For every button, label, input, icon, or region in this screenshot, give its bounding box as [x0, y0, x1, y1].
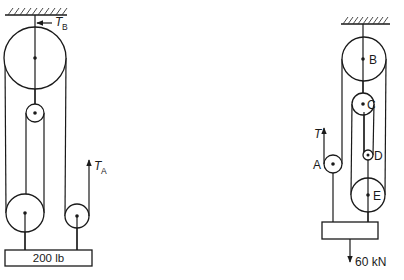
tension-b-subscript: B: [62, 22, 68, 32]
load-label: 200 lb: [33, 252, 64, 264]
load-box-60kn: [322, 222, 378, 239]
pulley-e-label: E: [373, 189, 381, 203]
right-ceiling: [341, 17, 390, 24]
pulley-d-label: D: [374, 149, 383, 163]
tension-a-subscript: A: [101, 166, 107, 176]
load-60kn-label: 60 kN: [355, 255, 386, 269]
right-pulley-system: T B C D A E 60 kN: [313, 17, 390, 269]
left-pulley-system: T A T B 200 lb: [4, 8, 107, 266]
pulley-b-label: B: [369, 53, 377, 67]
pulley-c-label: C: [367, 98, 376, 112]
pulley-diagram: T A T B 200 lb: [0, 0, 404, 280]
left-ceiling: [5, 8, 67, 15]
tension-t-label: T: [314, 127, 323, 141]
pulley-a-label: A: [313, 158, 321, 172]
